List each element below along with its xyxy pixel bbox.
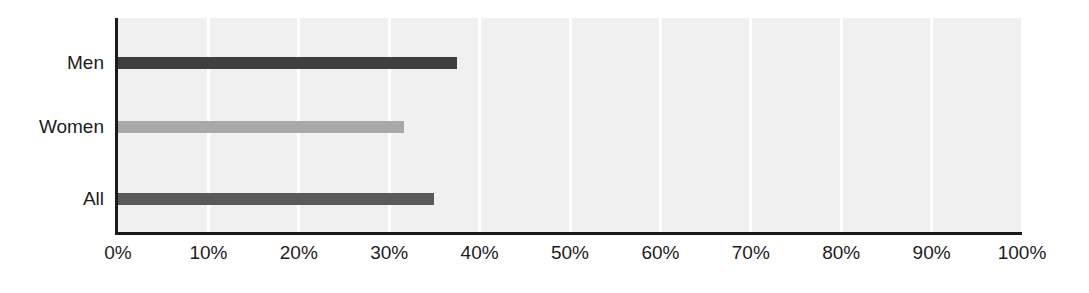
x-tick-70%: 70% — [732, 243, 770, 262]
category-label-men: Men — [0, 53, 104, 72]
gridline-100% — [1021, 18, 1023, 232]
x-tick-90%: 90% — [913, 243, 951, 262]
horizontal-bar-chart: Men Women All 0%10%20%30%40%50%60%70%80%… — [0, 0, 1089, 293]
x-tick-0%: 0% — [104, 243, 131, 262]
y-axis-line — [115, 18, 118, 232]
x-tick-80%: 80% — [822, 243, 860, 262]
bar-women[interactable] — [118, 121, 404, 133]
gridline-70% — [749, 18, 752, 232]
x-tick-50%: 50% — [551, 243, 589, 262]
x-tick-40%: 40% — [461, 243, 499, 262]
gridline-60% — [659, 18, 662, 232]
x-tick-10%: 10% — [189, 243, 227, 262]
gridline-90% — [930, 18, 933, 232]
x-tick-60%: 60% — [641, 243, 679, 262]
x-tick-100%: 100% — [998, 243, 1047, 262]
category-label-all: All — [0, 189, 104, 208]
gridline-50% — [569, 18, 572, 232]
x-tick-30%: 30% — [370, 243, 408, 262]
category-label-women: Women — [0, 117, 104, 136]
x-tick-20%: 20% — [280, 243, 318, 262]
plot-area — [118, 18, 1022, 232]
x-axis-line — [115, 232, 1022, 235]
gridline-40% — [478, 18, 481, 232]
bar-men[interactable] — [118, 57, 457, 69]
gridline-80% — [840, 18, 843, 232]
bar-all[interactable] — [118, 193, 434, 205]
